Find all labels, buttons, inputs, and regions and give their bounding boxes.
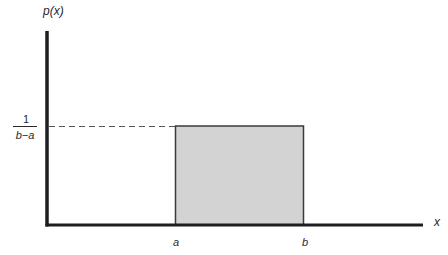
x-tick-a: a [173,236,179,248]
y-tick-numerator: 1 [23,113,29,125]
x-axis-label: x [433,215,441,229]
uniform-distribution-chart: p(x) x 1 b−a a b [0,0,448,255]
y-tick-denominator: b−a [16,129,35,141]
x-tick-b: b [302,236,308,248]
density-rectangle [176,126,304,225]
y-axis-label: p(x) [42,4,64,18]
